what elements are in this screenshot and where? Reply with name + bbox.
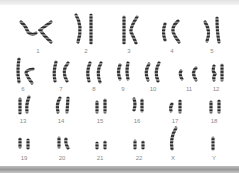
chromosome-label-2: 2	[84, 48, 87, 54]
chromosome-14a	[57, 98, 60, 112]
chromosome-8b	[98, 63, 101, 82]
chromosome-x	[172, 128, 177, 149]
karyotype-diagram	[0, 0, 239, 173]
chromosome-11a	[180, 71, 182, 79]
chromosome-label-y: Y	[212, 155, 216, 161]
chromosome-label-5: 5	[210, 48, 213, 54]
chromosome-14b	[67, 98, 68, 112]
chromosome-label-15: 15	[97, 118, 104, 124]
chromosome-label-16: 16	[134, 118, 141, 124]
chromosome-label-21: 21	[97, 155, 104, 161]
chromosome-label-10: 10	[150, 86, 157, 92]
chromosome-label-11: 11	[186, 86, 192, 92]
chromosome-13b	[27, 97, 29, 112]
chromosome-12a	[213, 66, 215, 80]
chromosome-2a	[76, 15, 80, 42]
chromosome-5b	[217, 18, 219, 42]
chromosome-6a	[18, 59, 19, 82]
chromosome-label-12: 12	[213, 86, 220, 92]
chromosome-label-13: 13	[20, 118, 27, 124]
chromosome-17a	[171, 104, 172, 111]
chromosome-10b	[156, 63, 159, 81]
chromosome-7b	[64, 63, 68, 81]
chromosome-7a	[54, 62, 56, 81]
chromosome-10a	[146, 64, 149, 80]
chromosome-1b	[40, 22, 51, 42]
chromosome-label-18: 18	[211, 118, 218, 124]
chromosome-label-x: X	[171, 155, 175, 161]
chromosome-label-7: 7	[59, 86, 62, 92]
chromosome-16a	[134, 99, 135, 110]
chromosome-label-20: 20	[59, 155, 66, 161]
chromosome-9b	[127, 63, 128, 79]
chromosome-label-22: 22	[136, 155, 143, 161]
chromosome-label-1: 1	[36, 48, 39, 54]
chromosome-label-9: 9	[121, 86, 124, 92]
chromosome-9a	[119, 65, 121, 79]
chromosome-label-14: 14	[58, 118, 65, 124]
chromosome-11b	[194, 68, 197, 80]
chromosome-label-6: 6	[21, 86, 24, 92]
chromosome-label-3: 3	[127, 48, 130, 54]
chromosome-1a	[21, 22, 36, 34]
chromosome-5a	[205, 22, 209, 41]
chromosome-6b	[26, 69, 33, 83]
chromosome-4b	[173, 21, 179, 42]
chromosome-label-8: 8	[92, 86, 95, 92]
chromosome-20b	[66, 139, 68, 148]
bottom-border	[0, 166, 239, 173]
chromosome-4a	[164, 24, 166, 40]
chromosome-label-19: 19	[21, 155, 28, 161]
chromosome-label-4: 4	[170, 48, 173, 54]
chromosome-8a	[88, 63, 90, 81]
chromosome-3b	[131, 17, 137, 43]
chromosome-label-17: 17	[172, 118, 179, 124]
